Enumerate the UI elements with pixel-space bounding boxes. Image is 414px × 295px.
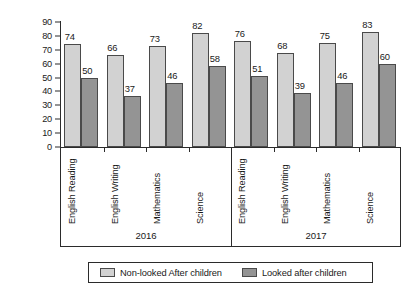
bar-value-label: 66 xyxy=(107,42,117,53)
bar-looked-after xyxy=(294,93,311,147)
bar-value-label: 39 xyxy=(295,80,305,91)
x-axis-tick-mark xyxy=(274,147,275,152)
bar-looked-after xyxy=(166,83,183,147)
x-axis-tick-mark xyxy=(189,147,190,152)
bar-value-label: 46 xyxy=(167,70,177,81)
y-axis-tick-10: 10 xyxy=(42,128,52,138)
bar-looked-after xyxy=(379,64,396,147)
bar-value-label: 68 xyxy=(277,40,287,51)
bar-value-label: 60 xyxy=(380,51,390,62)
x-axis-category-label: Science xyxy=(365,192,375,224)
bar-looked-after xyxy=(251,76,268,147)
bar-looked-after xyxy=(81,78,98,147)
bar-value-label: 83 xyxy=(362,19,372,30)
y-axis-tick-40: 40 xyxy=(42,86,52,96)
x-axis-tick-mark xyxy=(359,147,360,152)
x-axis-tick-mark xyxy=(146,147,147,152)
bar-looked-after xyxy=(124,96,141,147)
bar-non-looked-after xyxy=(149,46,166,147)
bar-chart: Percentage reaching the expected standar… xyxy=(0,0,414,295)
x-axis-tick-mark xyxy=(316,147,317,152)
y-axis-tick-50: 50 xyxy=(42,73,52,83)
bar-value-label: 50 xyxy=(82,65,92,76)
bar-value-label: 51 xyxy=(252,63,262,74)
bar-value-label: 37 xyxy=(125,83,135,94)
y-axis-tick-30: 30 xyxy=(42,100,52,110)
bar-non-looked-after xyxy=(107,55,124,147)
legend-item-looked-after: Looked after children xyxy=(242,268,347,278)
category-axis-box: English ReadingEnglish WritingMathematic… xyxy=(60,147,401,247)
bar-non-looked-after xyxy=(234,41,251,147)
bar-non-looked-after xyxy=(277,53,294,147)
legend-swatch-icon-looked-after xyxy=(242,268,257,277)
y-axis-tick-60: 60 xyxy=(42,59,52,69)
x-axis-category-label: English Writing xyxy=(110,164,120,224)
x-axis-category-label: English Reading xyxy=(67,159,77,224)
bar-value-label: 46 xyxy=(337,70,347,81)
y-axis-tick-0: 0 xyxy=(47,142,52,152)
bar-value-label: 58 xyxy=(210,53,220,64)
bar-value-label: 75 xyxy=(320,30,330,41)
x-axis-group-label-2016: 2016 xyxy=(61,230,231,241)
y-axis-tick-90: 90 xyxy=(42,17,52,27)
bar-non-looked-after xyxy=(192,33,209,147)
bar-looked-after xyxy=(336,83,353,147)
y-axis-tick-labels: 9080706050403020100 xyxy=(0,22,60,147)
x-axis-category-label: English Reading xyxy=(237,159,247,224)
group-divider xyxy=(231,147,232,247)
legend-item-non-looked-after: Non-looked After children xyxy=(100,268,222,278)
x-axis-tick-mark xyxy=(104,147,105,152)
bar-value-label: 82 xyxy=(192,20,202,31)
x-axis-category-label: Science xyxy=(195,192,205,224)
legend-label-looked-after: Looked after children xyxy=(262,268,347,278)
y-axis-tick-80: 80 xyxy=(42,31,52,41)
x-axis-group-label-2017: 2017 xyxy=(231,230,401,241)
bar-looked-after xyxy=(209,66,226,147)
bar-value-label: 74 xyxy=(65,31,75,42)
x-axis-category-label: Mathematics xyxy=(322,173,332,224)
bar-non-looked-after xyxy=(319,43,336,147)
x-axis-category-label: Mathematics xyxy=(152,173,162,224)
x-axis-category-label: English Writing xyxy=(280,164,290,224)
y-axis-tick-70: 70 xyxy=(42,45,52,55)
bar-value-label: 76 xyxy=(235,28,245,39)
y-axis-tick-20: 20 xyxy=(42,114,52,124)
plot-area: 74506637734682587651683975468360 xyxy=(60,22,400,147)
bar-non-looked-after xyxy=(64,44,81,147)
bar-value-label: 73 xyxy=(150,33,160,44)
legend-swatch-icon-non-looked-after xyxy=(100,268,115,277)
bar-non-looked-after xyxy=(362,32,379,147)
chart-legend: Non-looked After children Looked after c… xyxy=(88,262,373,283)
legend-label-non-looked-after: Non-looked After children xyxy=(120,268,222,278)
